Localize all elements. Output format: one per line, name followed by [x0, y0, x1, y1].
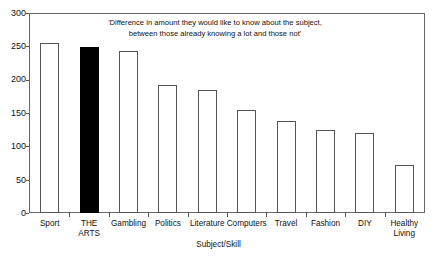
bars-layer — [30, 14, 424, 213]
x-tick-mark — [109, 213, 110, 217]
y-tick-label: 100 — [2, 142, 26, 151]
bar — [158, 85, 177, 213]
x-tick-mark — [69, 213, 70, 217]
y-tick-mark — [26, 46, 29, 47]
y-tick-mark — [26, 213, 29, 214]
y-tick-label: 0 — [2, 209, 26, 218]
bar-chart: 300 250 200 150 100 50 0 'Difference in … — [0, 0, 437, 263]
x-tick-mark — [345, 213, 346, 217]
bar — [355, 133, 374, 213]
x-tick-mark — [227, 213, 228, 217]
bar — [277, 121, 296, 213]
y-tick-label: 200 — [2, 75, 26, 84]
y-axis: 300 250 200 150 100 50 0 — [0, 0, 26, 263]
y-tick-mark — [26, 146, 29, 147]
y-tick-label: 150 — [2, 109, 26, 118]
x-axis-title: Subject/Skill — [0, 240, 437, 250]
bar — [198, 90, 217, 213]
bar — [80, 47, 99, 213]
y-tick-label: 300 — [2, 9, 26, 18]
bar — [395, 165, 414, 213]
x-tick-mark — [188, 213, 189, 217]
y-tick-label: 250 — [2, 42, 26, 51]
y-tick-mark — [26, 80, 29, 81]
bar — [40, 43, 59, 213]
bar — [316, 130, 335, 213]
bar — [237, 110, 256, 213]
y-tick-label: 50 — [2, 176, 26, 185]
x-tick-mark — [266, 213, 267, 217]
x-tick-mark — [148, 213, 149, 217]
x-tick-mark — [306, 213, 307, 217]
x-axis-label: Healthy Living — [381, 219, 428, 239]
bar — [119, 51, 138, 213]
y-tick-mark — [26, 13, 29, 14]
x-tick-mark — [385, 213, 386, 217]
y-tick-mark — [26, 180, 29, 181]
y-tick-mark — [26, 113, 29, 114]
